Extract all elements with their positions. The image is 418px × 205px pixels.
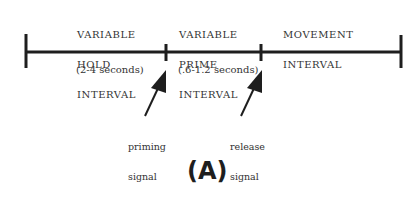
movement-interval-label: MOVEMENT INTERVAL bbox=[283, 10, 354, 80]
movement-label-line-2: INTERVAL bbox=[283, 60, 354, 70]
prime-label-line-3: INTERVAL bbox=[179, 90, 238, 100]
prime-label-line-1: VARIABLE bbox=[179, 30, 238, 40]
hold-label-line-3: INTERVAL bbox=[77, 90, 136, 100]
priming-signal-label: priming signal bbox=[128, 122, 166, 192]
prime-duration: (.6-1.2 seconds) bbox=[178, 64, 258, 76]
hold-duration: (2-4 seconds) bbox=[76, 64, 144, 76]
release-arrow-icon bbox=[241, 70, 262, 116]
panel-label: (A) bbox=[187, 157, 228, 185]
release-signal-line-2: signal bbox=[230, 172, 265, 182]
priming-arrow-icon bbox=[145, 70, 166, 116]
prime-interval-label: VARIABLE PRIME INTERVAL bbox=[179, 10, 238, 110]
release-signal-line-1: release bbox=[230, 142, 265, 152]
movement-label-line-1: MOVEMENT bbox=[283, 30, 354, 40]
priming-signal-line-1: priming bbox=[128, 142, 166, 152]
priming-signal-line-2: signal bbox=[128, 172, 166, 182]
hold-label-line-1: VARIABLE bbox=[77, 30, 136, 40]
release-signal-label: release signal bbox=[230, 122, 265, 192]
hold-interval-label: VARIABLE HOLD INTERVAL bbox=[77, 10, 136, 110]
